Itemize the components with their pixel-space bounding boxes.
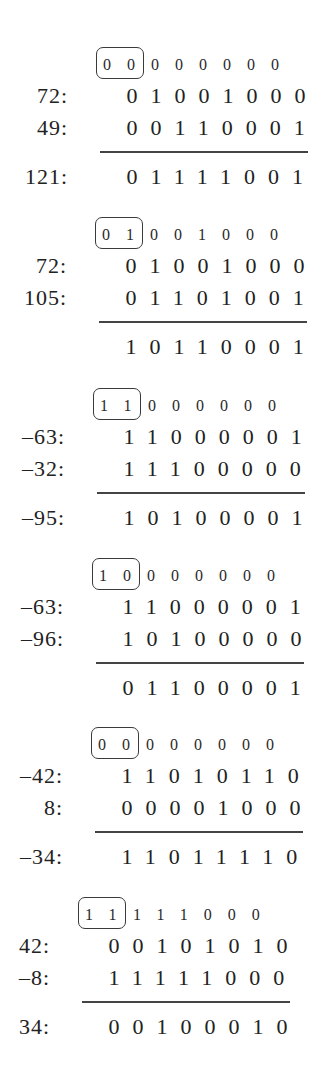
result-bits: 01111001: [127, 166, 317, 188]
operand-1-label: 42:: [0, 935, 50, 957]
carry-bits-boxed: 00: [98, 737, 146, 753]
result-bits: 00100010: [109, 1016, 301, 1038]
operand-1-bits: 00101010: [109, 935, 301, 957]
sum-rule: [95, 831, 303, 833]
operand-1-label: –63:: [0, 426, 65, 448]
carry-bits: 000000: [147, 568, 291, 584]
addition-example-3: 11 000000 –63: 11000001 –32: 11100000 –9…: [0, 406, 317, 536]
sum-rule: [97, 492, 305, 494]
result-label: –34:: [0, 846, 63, 868]
carry-bits: 000000: [146, 737, 290, 753]
operand-1-label: 72:: [0, 85, 68, 107]
operand-2-label: 49:: [0, 117, 68, 139]
carry-bits: 000000: [148, 398, 292, 414]
operand-1-label: 72:: [0, 255, 67, 277]
carry-bits: 000000: [151, 57, 295, 73]
operand-2-bits: 11100000: [124, 458, 314, 480]
sum-rule: [99, 321, 307, 323]
operand-2-label: –8:: [0, 967, 50, 989]
operand-1-bits: 11010110: [122, 765, 312, 787]
operand-1-label: –42:: [0, 765, 63, 787]
addition-example-5: 00 000000 –42: 11010110 8: 00001000 –34:…: [0, 745, 315, 875]
addition-example-1: 00 000000 72: 01001000 49: 00110001 121:…: [0, 65, 320, 195]
addition-example-4: 10 000000 –63: 11000001 –96: 10100000 01…: [0, 576, 316, 706]
carry-bits-boxed: 10: [99, 568, 147, 584]
carry-bits: 111000: [133, 907, 276, 923]
result-bits: 11011110: [122, 846, 311, 868]
operand-2-label: 105:: [0, 287, 67, 309]
carry-bits-boxed: 01: [102, 227, 150, 243]
operand-2-label: 8:: [0, 797, 63, 819]
addition-example-2: 01 001000 72: 01001000 105: 01101001 101…: [0, 235, 319, 365]
result-bits: 10110001: [126, 336, 317, 358]
sum-rule: [96, 662, 304, 664]
operand-2-bits: 00110001: [127, 117, 318, 139]
carry-bits-boxed: 11: [100, 398, 147, 414]
sum-rule: [82, 1001, 290, 1003]
addition-example-6: 11 111000 42: 00101010 –8: 11111000 34: …: [0, 915, 302, 1045]
operand-2-bits: 01101001: [126, 287, 317, 309]
sum-rule: [100, 151, 308, 153]
operand-1-bits: 11000001: [124, 426, 315, 448]
carry-bits-boxed: 11: [85, 907, 132, 923]
result-bits: 10100001: [124, 507, 316, 529]
operand-2-bits: 10100000: [123, 628, 315, 650]
operand-2-label: –96:: [0, 628, 64, 650]
carry-bits-boxed: 00: [103, 57, 151, 73]
result-bits: 01100001: [123, 677, 314, 699]
result-label: –95:: [0, 507, 65, 529]
result-label: 34:: [0, 1016, 50, 1038]
operand-1-bits: 01001000: [126, 255, 318, 277]
operand-2-label: –32:: [0, 458, 65, 480]
operand-2-bits: 00001000: [122, 797, 314, 819]
operand-2-bits: 11111000: [109, 967, 298, 989]
operand-1-bits: 11000001: [123, 596, 314, 618]
operand-1-label: –63:: [0, 596, 64, 618]
carry-bits: 001000: [150, 227, 294, 243]
operand-1-bits: 01001000: [127, 85, 319, 107]
result-label: 121:: [0, 166, 68, 188]
